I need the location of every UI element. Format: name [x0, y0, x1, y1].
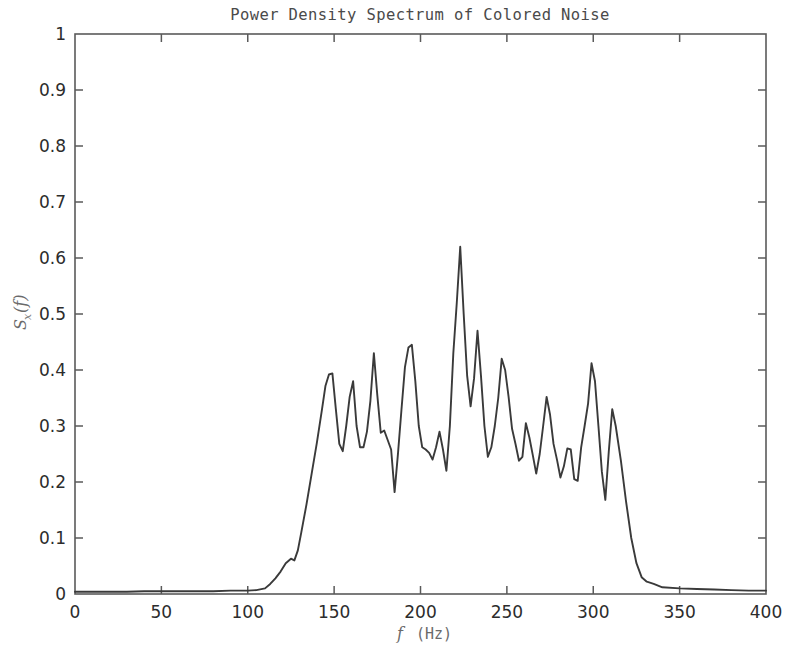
y-tick-label: 0.3 [39, 416, 66, 436]
x-tick-label: 350 [663, 602, 695, 622]
y-axis-label-subscript: x [21, 313, 34, 320]
y-axis-label: S x (f) [11, 295, 34, 330]
y-tick-label: 0.7 [39, 192, 66, 212]
x-axis-label-unit: (Hz) [416, 625, 452, 643]
x-tick-label: 250 [491, 602, 523, 622]
x-tick-label: 150 [318, 602, 350, 622]
power-spectrum-chart: Power Density Spectrum of Colored Noise … [0, 0, 787, 649]
y-tick-label: 0 [55, 584, 66, 604]
y-tick-label: 0.4 [39, 360, 66, 380]
plot-axes-box [75, 34, 766, 594]
x-tick-label: 0 [70, 602, 81, 622]
y-tick-label: 0.9 [39, 80, 66, 100]
y-tick-label: 0.6 [39, 248, 66, 268]
y-tick-label: 0.5 [39, 304, 66, 324]
x-tick-label: 300 [577, 602, 609, 622]
x-tick-label: 400 [750, 602, 782, 622]
y-axis-ticks: 00.10.20.30.40.50.60.70.80.91 [39, 24, 766, 604]
spectrum-data-line [75, 247, 766, 592]
x-axis-label-symbol: f [396, 624, 406, 643]
figure-canvas: Power Density Spectrum of Colored Noise … [0, 0, 787, 649]
x-axis-label: f (Hz) [396, 624, 452, 643]
y-tick-label: 0.2 [39, 472, 66, 492]
x-axis-ticks: 050100150200250300350400 [70, 34, 783, 622]
chart-title: Power Density Spectrum of Colored Noise [230, 6, 610, 24]
y-axis-label-argument: (f) [11, 295, 30, 313]
y-tick-label: 0.1 [39, 528, 66, 548]
x-tick-label: 100 [232, 602, 264, 622]
y-tick-label: 1 [55, 24, 66, 44]
x-tick-label: 50 [151, 602, 173, 622]
x-tick-label: 200 [404, 602, 436, 622]
y-tick-label: 0.8 [39, 136, 66, 156]
